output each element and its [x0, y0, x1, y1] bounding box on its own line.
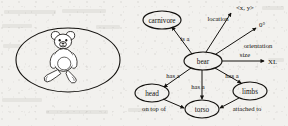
bear-arm-right — [72, 53, 77, 69]
value-node-orientation-degrees: 0° — [259, 21, 265, 28]
node-carnivore-label: carnivore — [148, 17, 175, 25]
node-limbs-label: limbs — [242, 88, 258, 96]
edge-label-attached-to: attached to — [233, 105, 262, 112]
semantic-network: carnivore bear head torso limbs <x, y> 0… — [135, 4, 277, 118]
node-head[interactable]: head — [135, 84, 169, 102]
edge-label-location: location — [207, 15, 229, 22]
bear-nose — [62, 43, 65, 44]
edge-label-is-a: is a — [181, 35, 190, 42]
bear-eye-left — [59, 39, 61, 41]
bear-torso — [53, 49, 74, 72]
edge-label-has-a-head: has a — [166, 72, 179, 79]
edge-label-orientation: orientation — [244, 42, 273, 49]
bear-eye-right — [65, 39, 67, 41]
edge-head-on-top-of-torso — [163, 99, 184, 108]
value-node-location-xy: <x, y> — [236, 4, 254, 11]
node-torso[interactable]: torso — [185, 100, 219, 118]
edge-label-has-a-torso: has a — [191, 83, 204, 90]
bear-arm-left — [50, 53, 55, 69]
node-torso-label: torso — [195, 106, 210, 114]
node-bear-label: bear — [197, 58, 210, 66]
node-carnivore[interactable]: carnivore — [143, 11, 181, 29]
figure-canvas: carnivore bear head torso limbs <x, y> 0… — [0, 0, 288, 126]
teddy-bear-panel — [16, 28, 120, 92]
bear-leg-left — [44, 70, 61, 82]
edge-label-size: size — [240, 51, 250, 58]
node-bear[interactable]: bear — [184, 52, 222, 70]
value-node-size-xl: XL — [268, 58, 277, 65]
node-limbs[interactable]: limbs — [233, 82, 267, 100]
bear-leg-right — [66, 70, 76, 83]
teddy-bear-drawing — [44, 32, 77, 84]
edge-label-on-top-of: on top of — [142, 105, 167, 112]
node-head-label: head — [145, 90, 159, 98]
edge-label-has-a-limbs: has a — [225, 72, 238, 79]
figure-page: carnivore bear head torso limbs <x, y> 0… — [0, 0, 288, 126]
